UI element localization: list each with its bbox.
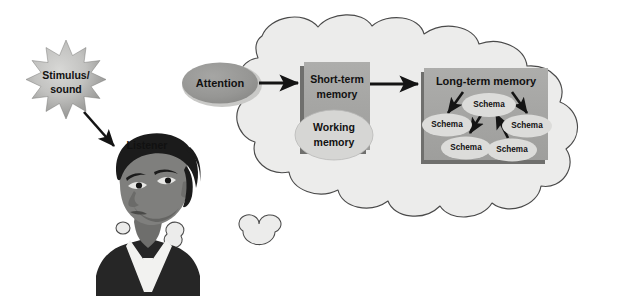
schema-bottom-center-label: Schema	[496, 145, 528, 154]
diagram-svg: Stimulus/ sound	[0, 0, 628, 296]
attention-label: Attention	[196, 77, 245, 89]
listener-label: Listener	[127, 139, 168, 151]
schema-top-center: Schema	[462, 93, 516, 117]
diagram-canvas: Stimulus/ sound	[0, 0, 628, 296]
working-memory-label-line1: Working	[313, 121, 355, 133]
arrow-stimulus-to-listener	[84, 112, 114, 146]
thought-bubble-large	[239, 215, 281, 245]
long-term-memory-title: Long-term memory	[436, 75, 537, 87]
schema-bottom-left-label: Schema	[450, 143, 482, 152]
schema-bottom-center: Schema	[487, 139, 537, 162]
stimulus-label-line2: sound	[50, 83, 82, 95]
short-term-memory-label-line1: Short-term	[310, 73, 364, 85]
listener-figure	[96, 133, 201, 296]
thought-bubble-small	[116, 222, 130, 234]
schema-left: Schema	[422, 114, 472, 137]
schema-top-center-label: Schema	[473, 100, 505, 109]
working-memory-label-line2: memory	[314, 136, 355, 148]
schema-left-label: Schema	[431, 120, 463, 129]
short-term-memory-label-line2: memory	[317, 88, 358, 100]
schema-right: Schema	[502, 115, 552, 138]
schema-right-label: Schema	[511, 121, 543, 130]
schema-bottom-left: Schema	[441, 137, 491, 160]
stimulus-label-line1: Stimulus/	[42, 69, 89, 81]
